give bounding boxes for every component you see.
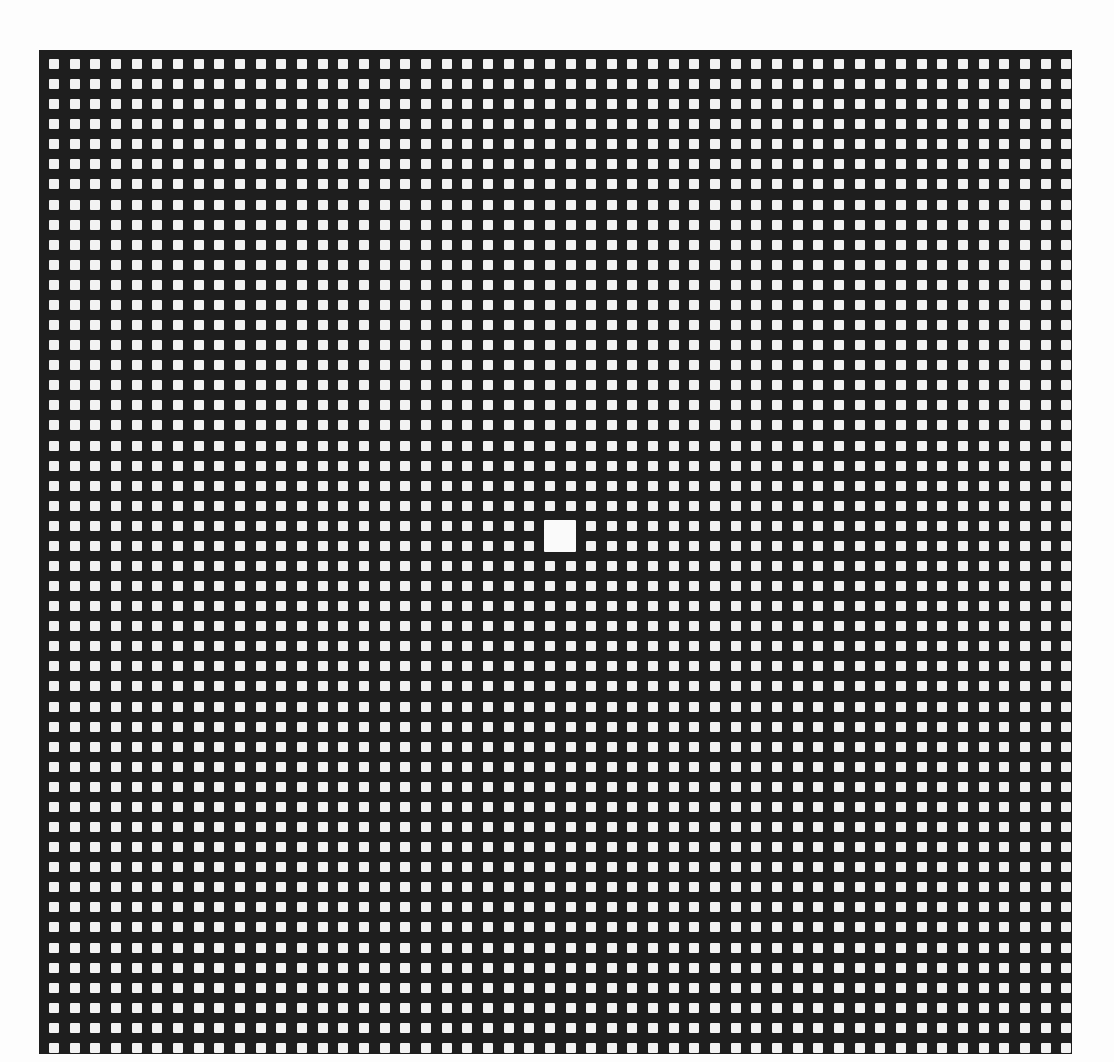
- grid-cell[interactable]: [979, 380, 989, 390]
- grid-cell[interactable]: [421, 99, 431, 109]
- grid-cell[interactable]: [256, 521, 266, 531]
- grid-cell[interactable]: [194, 661, 204, 671]
- grid-cell[interactable]: [297, 99, 307, 109]
- grid-cell[interactable]: [751, 1023, 761, 1033]
- grid-cell[interactable]: [586, 742, 596, 752]
- grid-cell[interactable]: [813, 762, 823, 772]
- grid-cell[interactable]: [256, 280, 266, 290]
- grid-cell[interactable]: [731, 119, 741, 129]
- grid-cell[interactable]: [669, 200, 679, 210]
- grid-cell[interactable]: [400, 702, 410, 712]
- grid-cell[interactable]: [834, 702, 844, 712]
- grid-cell[interactable]: [772, 922, 782, 932]
- grid-cell[interactable]: [297, 119, 307, 129]
- grid-cell[interactable]: [111, 200, 121, 210]
- grid-cell[interactable]: [937, 99, 947, 109]
- grid-cell[interactable]: [751, 762, 761, 772]
- grid-cell[interactable]: [648, 79, 658, 89]
- grid-cell[interactable]: [483, 521, 493, 531]
- grid-cell[interactable]: [297, 983, 307, 993]
- grid-cell[interactable]: [627, 260, 637, 270]
- grid-cell[interactable]: [648, 139, 658, 149]
- grid-cell[interactable]: [90, 742, 100, 752]
- grid-cell[interactable]: [504, 541, 514, 551]
- grid-cell[interactable]: [338, 420, 348, 430]
- grid-cell[interactable]: [442, 822, 452, 832]
- grid-cell[interactable]: [751, 380, 761, 390]
- grid-cell[interactable]: [834, 280, 844, 290]
- grid-cell[interactable]: [524, 340, 534, 350]
- grid-cell[interactable]: [689, 521, 699, 531]
- grid-cell[interactable]: [400, 320, 410, 330]
- grid-cell[interactable]: [70, 902, 80, 912]
- grid-cell[interactable]: [607, 943, 617, 953]
- grid-cell[interactable]: [979, 99, 989, 109]
- grid-cell[interactable]: [917, 802, 927, 812]
- grid-cell[interactable]: [504, 902, 514, 912]
- grid-cell[interactable]: [359, 561, 369, 571]
- grid-cell[interactable]: [70, 139, 80, 149]
- grid-cell[interactable]: [194, 501, 204, 511]
- grid-cell[interactable]: [338, 561, 348, 571]
- grid-cell[interactable]: [111, 380, 121, 390]
- grid-cell[interactable]: [400, 380, 410, 390]
- grid-cell[interactable]: [772, 782, 782, 792]
- grid-cell[interactable]: [586, 501, 596, 511]
- grid-cell[interactable]: [256, 561, 266, 571]
- grid-cell[interactable]: [958, 340, 968, 350]
- grid-cell[interactable]: [793, 220, 803, 230]
- grid-cell[interactable]: [256, 260, 266, 270]
- grid-cell[interactable]: [1061, 742, 1071, 752]
- grid-cell[interactable]: [338, 842, 348, 852]
- grid-cell[interactable]: [607, 842, 617, 852]
- grid-cell[interactable]: [834, 802, 844, 812]
- grid-cell[interactable]: [896, 119, 906, 129]
- grid-cell[interactable]: [813, 400, 823, 410]
- grid-cell[interactable]: [152, 943, 162, 953]
- grid-cell[interactable]: [958, 842, 968, 852]
- grid-cell[interactable]: [917, 79, 927, 89]
- grid-cell[interactable]: [855, 501, 865, 511]
- grid-cell[interactable]: [689, 702, 699, 712]
- grid-cell[interactable]: [1041, 521, 1051, 531]
- grid-cell[interactable]: [70, 541, 80, 551]
- grid-cell[interactable]: [627, 541, 637, 551]
- grid-cell[interactable]: [710, 400, 720, 410]
- grid-cell[interactable]: [338, 240, 348, 250]
- grid-cell[interactable]: [214, 360, 224, 370]
- grid-cell[interactable]: [380, 922, 390, 932]
- grid-cell[interactable]: [979, 922, 989, 932]
- grid-cell[interactable]: [90, 441, 100, 451]
- grid-cell[interactable]: [1020, 902, 1030, 912]
- grid-cell[interactable]: [1020, 842, 1030, 852]
- grid-cell[interactable]: [566, 943, 576, 953]
- grid-cell[interactable]: [132, 601, 142, 611]
- grid-cell[interactable]: [421, 461, 431, 471]
- grid-cell[interactable]: [276, 159, 286, 169]
- grid-cell[interactable]: [152, 380, 162, 390]
- grid-cell[interactable]: [235, 400, 245, 410]
- grid-cell[interactable]: [875, 702, 885, 712]
- grid-cell[interactable]: [1041, 159, 1051, 169]
- grid-cell[interactable]: [504, 320, 514, 330]
- grid-cell[interactable]: [1061, 420, 1071, 430]
- grid-cell[interactable]: [483, 782, 493, 792]
- grid-cell[interactable]: [524, 641, 534, 651]
- grid-cell[interactable]: [132, 802, 142, 812]
- grid-cell[interactable]: [256, 601, 266, 611]
- grid-cell[interactable]: [937, 481, 947, 491]
- grid-cell[interactable]: [855, 260, 865, 270]
- grid-cell[interactable]: [483, 621, 493, 631]
- grid-cell[interactable]: [875, 802, 885, 812]
- grid-cell[interactable]: [834, 380, 844, 390]
- grid-cell[interactable]: [855, 963, 865, 973]
- grid-cell[interactable]: [462, 561, 472, 571]
- grid-cell[interactable]: [462, 360, 472, 370]
- grid-cell[interactable]: [359, 119, 369, 129]
- grid-cell[interactable]: [214, 762, 224, 772]
- grid-cell[interactable]: [627, 983, 637, 993]
- grid-cell[interactable]: [896, 1023, 906, 1033]
- grid-cell[interactable]: [152, 79, 162, 89]
- grid-cell[interactable]: [90, 481, 100, 491]
- grid-cell[interactable]: [111, 99, 121, 109]
